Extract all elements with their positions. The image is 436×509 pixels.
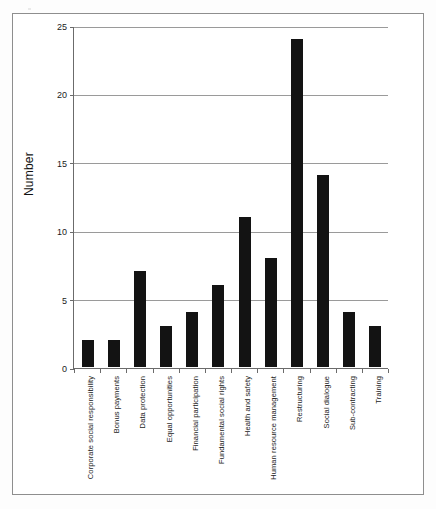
x-tick-label: Sub-contracting [349,376,357,430]
x-tick-label: Fundamental social rights [218,376,226,464]
x-tick-label: Social dialogue [323,376,331,428]
bar-slot [310,27,336,367]
bar-slot [231,27,257,367]
y-tick-label: 25 [57,23,67,32]
bar[interactable] [212,285,224,367]
x-tick-label: Human resource management [270,376,278,480]
bar-slot [101,27,127,367]
x-label-slot: Training [362,376,388,488]
y-tick-mark [70,300,74,301]
x-label-slot: Equal opportunities [153,376,179,488]
bar-slot [127,27,153,367]
y-tick-label: 20 [57,91,67,100]
bars-group [75,27,388,367]
x-tick-slot [126,369,152,374]
x-tick-slot [362,369,388,374]
x-tick-mark [100,369,101,373]
x-tick-slot [310,369,336,374]
x-tick-mark [179,369,180,373]
x-tick-mark [257,369,258,373]
bar-slot [75,27,101,367]
x-tick-mark [283,369,284,373]
bar-slot [284,27,310,367]
x-label-slot: Health and safety [231,376,257,488]
x-tick-mark [74,369,75,373]
y-tick-mark [70,163,74,164]
x-tick-slot [153,369,179,374]
y-tick-mark [70,27,74,28]
y-tick-label: 0 [62,365,67,374]
x-tick-mark [310,369,311,373]
bar-slot [258,27,284,367]
x-tick-mark [231,369,232,373]
x-tick-slot [257,369,283,374]
bar[interactable] [160,326,172,367]
x-tick-label: Data protection [139,376,147,428]
x-tick-mark [153,369,154,373]
x-tick-label: Health and safety [244,376,252,436]
bar[interactable] [186,312,198,367]
x-tick-slot [74,369,100,374]
x-label-slot: Human resource management [257,376,283,488]
bar-slot [179,27,205,367]
x-tick-label: Equal opportunities [166,376,174,442]
bar[interactable] [317,175,329,367]
bar[interactable] [82,340,94,367]
x-label-slot: Restructuring [283,376,309,488]
x-tick-slot [336,369,362,374]
chart-figure: Number 0510152025 Corporate social respo… [0,0,436,509]
x-tick-slot [231,369,257,374]
x-tick-label: Restructuring [296,376,304,422]
x-tick-mark [336,369,337,373]
x-label-slot: Sub-contracting [336,376,362,488]
x-label-slot: Social dialogue [310,376,336,488]
bar[interactable] [343,312,355,367]
bar[interactable] [369,326,381,367]
bar[interactable] [134,271,146,367]
plot-area: 0510152025 [73,27,388,369]
bar[interactable] [265,258,277,367]
x-tick-label: Financial participation [192,376,200,451]
x-axis-ticks [74,369,388,374]
x-tick-slot [283,369,309,374]
y-axis-title: Number [22,152,36,196]
bar[interactable] [108,340,120,367]
x-tick-slot [205,369,231,374]
x-axis-labels: Corporate social responsibilityBonus pay… [74,376,388,488]
bar-slot [153,27,179,367]
x-tick-mark [205,369,206,373]
y-tick-mark [70,232,74,233]
y-tick-label: 15 [57,159,67,168]
y-tick-label: 10 [57,228,67,237]
x-tick-label: Corporate social responsibility [87,376,95,479]
y-tick-mark [70,95,74,96]
y-tick-label: 5 [62,296,67,305]
x-tick-mark [126,369,127,373]
x-tick-label: Bonus payments [113,376,121,433]
x-tick-slot [179,369,205,374]
x-label-slot: Fundamental social rights [205,376,231,488]
x-tick-mark [362,369,363,373]
x-label-slot: Bonus payments [100,376,126,488]
x-label-slot: Corporate social responsibility [74,376,100,488]
plot-wrapper: 0510152025 [73,27,388,369]
bar[interactable] [239,217,251,367]
x-tick-slot [100,369,126,374]
x-tick-label: Training [375,376,383,404]
bar[interactable] [291,39,303,367]
x-label-slot: Financial participation [179,376,205,488]
scan-artifact [28,8,31,10]
bar-slot [205,27,231,367]
x-tick-mark [388,369,389,373]
bar-slot [336,27,362,367]
x-label-slot: Data protection [126,376,152,488]
bar-slot [362,27,388,367]
